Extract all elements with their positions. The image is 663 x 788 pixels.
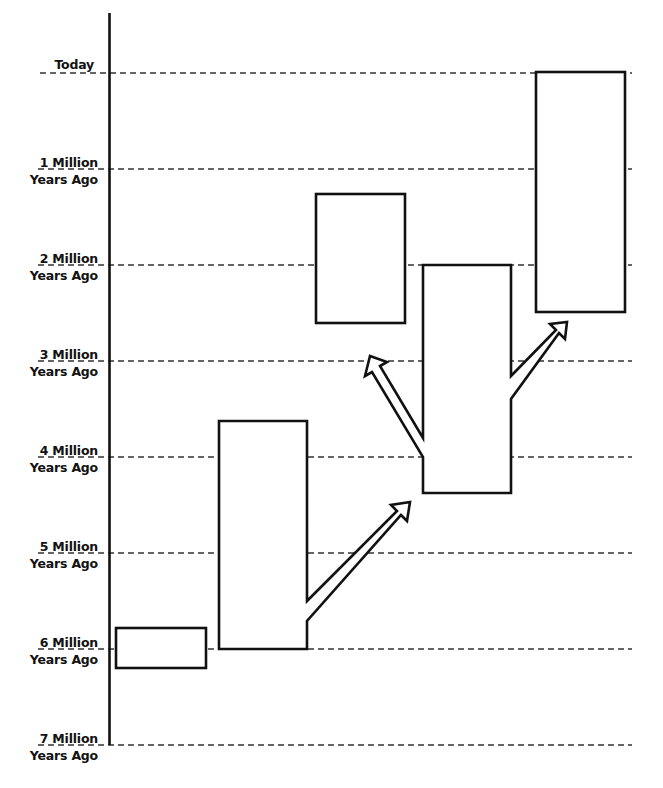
tick-label-line1: 7 Million: [20, 730, 98, 747]
tick-label-line2: Years Ago: [20, 651, 98, 668]
tick-label-line1: 1 Million: [20, 154, 98, 171]
tick-label-line2: Years Ago: [20, 171, 98, 188]
box-c: [316, 194, 405, 323]
box-b-with-arrow: [219, 421, 410, 649]
tick-label-line2: Years Ago: [20, 555, 98, 572]
tick-label-6mya: 6 Million Years Ago: [20, 634, 98, 668]
tick-label-line1: 3 Million: [20, 346, 98, 363]
tick-label-3mya: 3 Million Years Ago: [20, 346, 98, 380]
tick-label-5mya: 5 Million Years Ago: [20, 538, 98, 572]
tick-label-line1: 6 Million: [20, 634, 98, 651]
tick-label-line1: 2 Million: [20, 250, 98, 267]
tick-label-line2: Years Ago: [20, 459, 98, 476]
tick-label-line1: 4 Million: [20, 442, 98, 459]
tick-label-today: Today: [20, 56, 94, 73]
timeline-diagram: [0, 0, 663, 788]
tick-label-line1: Today: [20, 56, 94, 73]
tick-label-line2: Years Ago: [20, 363, 98, 380]
tick-label-1mya: 1 Million Years Ago: [20, 154, 98, 188]
tick-label-7mya: 7 Million Years Ago: [20, 730, 98, 764]
box-e: [536, 72, 625, 312]
tick-label-line1: 5 Million: [20, 538, 98, 555]
tick-label-line2: Years Ago: [20, 747, 98, 764]
tick-label-line2: Years Ago: [20, 267, 98, 284]
box-a: [116, 628, 206, 668]
tick-label-4mya: 4 Million Years Ago: [20, 442, 98, 476]
tick-label-2mya: 2 Million Years Ago: [20, 250, 98, 284]
